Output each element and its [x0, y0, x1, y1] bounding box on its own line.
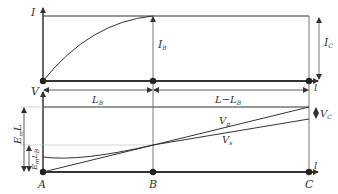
- l-minus-lb-label: L−LB: [214, 94, 242, 106]
- dimension-row: V LB L−LB: [31, 85, 308, 106]
- point-a-label: A: [37, 178, 46, 191]
- bottom-panel: EmL EmLB Vp Vs VC l A B C: [12, 83, 332, 191]
- diagram: I IB IC l V LB L−LB: [0, 0, 338, 194]
- node-b: [150, 169, 156, 175]
- eml-label: EmL: [12, 124, 24, 145]
- node-a: [40, 169, 46, 175]
- top-end-label: l: [314, 82, 317, 93]
- ic-label: IC: [323, 36, 333, 49]
- lb-label: LB: [91, 94, 104, 106]
- vc-label: VC: [320, 108, 332, 120]
- bottom-end-label: l: [314, 160, 317, 171]
- vp-label: Vp: [219, 115, 230, 128]
- ib-label: IB: [157, 38, 167, 51]
- vs-label: Vs: [222, 134, 232, 146]
- vs-curve: [43, 119, 309, 158]
- current-curve: [43, 16, 153, 81]
- node-c: [306, 169, 312, 175]
- point-b-label: B: [148, 178, 157, 191]
- v-axis-label: V: [31, 85, 40, 98]
- top-axis-label: I: [30, 6, 36, 19]
- emlb-label: EmLB: [30, 148, 40, 171]
- node-origin-top: [40, 78, 46, 84]
- top-panel: I IB IC l: [30, 6, 333, 93]
- vp-line: [43, 107, 309, 172]
- point-c-label: C: [305, 178, 314, 191]
